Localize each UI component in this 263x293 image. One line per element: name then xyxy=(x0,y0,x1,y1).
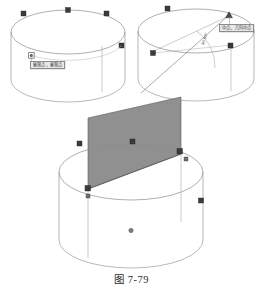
grip-cylinder3-back-left-quadrant[interactable] xyxy=(77,141,82,146)
osnap-tooltip-quadrant: 象限点，象限点 xyxy=(30,61,65,69)
grip-cylinder3-right-base-quadrant[interactable] xyxy=(199,198,204,203)
view-top-left-cylinder xyxy=(11,8,125,103)
grip-cylinder3-right-quadrant[interactable] xyxy=(177,149,183,155)
grip-cylinder1-left-back-quadrant[interactable] xyxy=(21,11,26,16)
cad-figure-container: 象限点，象限点 中点，几何中点 30.00° 图 7-79 xyxy=(0,0,263,293)
osnap-tooltip-midpoint: 中点，几何中点 xyxy=(219,24,254,32)
grip-cylinder1-right-back-quadrant[interactable] xyxy=(104,11,109,16)
cylinder1-top-ellipse xyxy=(11,10,125,54)
cylinder3-bottom-arc xyxy=(59,240,203,268)
grip-cylinder2-left-quadrant[interactable] xyxy=(151,51,156,56)
grip-cylinder3-front-left-quadrant[interactable] xyxy=(85,186,91,192)
grip-cylinder3-right-secondary[interactable] xyxy=(184,157,188,161)
grip-cylinder3-front-left-secondary[interactable] xyxy=(86,194,90,198)
cylinder1-bottom-arc xyxy=(11,80,125,102)
cylinder2-bottom-arc xyxy=(138,79,254,101)
osnap-midpoint-triangle-marker xyxy=(226,12,233,18)
view-bottom-cylinder xyxy=(59,97,204,268)
grip-cylinder3-plane-top-midpoint[interactable] xyxy=(130,139,135,144)
grip-cylinder1-back-quadrant[interactable] xyxy=(66,8,71,13)
cad-drawing-canvas xyxy=(0,0,263,293)
figure-caption: 图 7-79 xyxy=(0,271,263,286)
grip-cylinder2-right-quadrant[interactable] xyxy=(228,43,233,48)
grip-cylinder2-back-left-quadrant[interactable] xyxy=(165,6,170,11)
view-top-right-cylinder xyxy=(138,6,254,101)
grip-cylinder3-center-point[interactable] xyxy=(129,228,133,232)
